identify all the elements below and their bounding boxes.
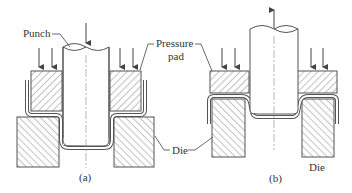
caption-b: (b) — [269, 172, 282, 185]
leader-die-a — [155, 136, 170, 150]
label-pressure-pad-2: pad — [168, 50, 184, 62]
label-die-b: Die — [309, 161, 325, 173]
label-die: Die — [172, 144, 188, 156]
leader-die-b — [188, 137, 213, 150]
panel-b — [209, 10, 337, 157]
die-right-a — [114, 117, 154, 167]
leader-pressure-pad-a — [140, 44, 154, 70]
pressure-pad-right-b — [297, 71, 337, 93]
pressure-pad-left-b — [210, 71, 249, 93]
die-left-b — [212, 99, 245, 157]
die-right-b — [302, 99, 334, 157]
label-pressure-pad: Pressure — [156, 37, 193, 49]
label-punch: Punch — [23, 27, 51, 39]
forming-diagram: Punch Pressure pad Die Die (a) (b) — [0, 0, 352, 193]
caption-a: (a) — [79, 171, 92, 184]
pressure-pad-right-a — [110, 71, 141, 111]
die-left-a — [17, 117, 59, 167]
panel-a — [17, 23, 154, 168]
leader-pressure-pad-b — [195, 44, 212, 71]
pressure-pad-left-a — [31, 71, 62, 111]
